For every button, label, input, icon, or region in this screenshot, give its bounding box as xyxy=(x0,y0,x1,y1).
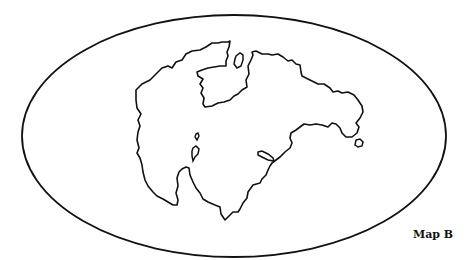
map-label: Map B xyxy=(413,228,453,241)
continental-landmass xyxy=(136,41,363,220)
island-north xyxy=(234,53,243,68)
world-map-figure xyxy=(0,0,471,260)
island-west-small xyxy=(195,133,199,140)
island-south-elongated xyxy=(258,151,274,161)
island-east xyxy=(355,139,363,147)
world-outline-oval xyxy=(22,15,446,257)
island-west-large xyxy=(192,146,199,161)
